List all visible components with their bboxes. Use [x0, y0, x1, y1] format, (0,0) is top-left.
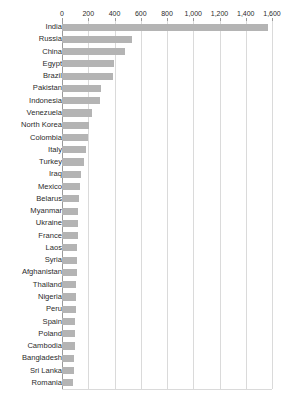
bar	[62, 183, 80, 190]
bar-row: Venezuela	[0, 107, 288, 119]
category-label: North Korea	[21, 121, 62, 129]
bar	[62, 109, 92, 116]
bar-row: Indonesia	[0, 95, 288, 107]
category-label: Syria	[45, 256, 62, 264]
bar	[62, 73, 113, 80]
category-label: Belarus	[36, 195, 62, 203]
bar	[62, 342, 75, 349]
bar	[62, 97, 100, 104]
bar-row: Laos	[0, 242, 288, 254]
axis-baseline	[62, 389, 272, 390]
category-label: Egypt	[43, 60, 62, 68]
bar-row: Romania	[0, 377, 288, 389]
category-label: Poland	[38, 330, 62, 338]
bar-rows: IndiaRussiaChinaEgyptBrazilPakistanIndon…	[0, 21, 288, 389]
bar-row: Egypt	[0, 58, 288, 70]
category-label: Colombia	[30, 134, 62, 142]
bar	[62, 306, 76, 313]
category-label: Pakistan	[33, 84, 62, 92]
bar	[62, 195, 79, 202]
bar-row: Poland	[0, 328, 288, 340]
category-label: India	[46, 23, 62, 31]
bar-row: Belarus	[0, 193, 288, 205]
bar-row: Russia	[0, 33, 288, 45]
category-label: Nigeria	[38, 293, 62, 301]
category-label: Romania	[32, 379, 62, 387]
category-label: Sri Lanka	[30, 367, 62, 375]
bar	[62, 36, 132, 43]
bar	[62, 232, 78, 239]
bar-row: Ukraine	[0, 217, 288, 229]
bar-chart: 02004006008001,0001,2001,4001,600 IndiaR…	[0, 0, 288, 393]
bar-row: Peru	[0, 303, 288, 315]
bar	[62, 85, 101, 92]
category-label: Spain	[43, 318, 62, 326]
category-label: Brazil	[43, 72, 62, 80]
bar-row: Iraq	[0, 168, 288, 180]
bar-row: France	[0, 230, 288, 242]
category-label: Myanmar	[30, 207, 62, 215]
category-label: Italy	[48, 146, 62, 154]
category-label: Bangladesh	[22, 354, 62, 362]
category-label: Indonesia	[29, 97, 62, 105]
category-label: Laos	[46, 244, 62, 252]
category-label: Venezuela	[27, 109, 62, 117]
bar-row: Sri Lanka	[0, 364, 288, 376]
bar-row: Mexico	[0, 180, 288, 192]
bar	[62, 281, 76, 288]
category-label: Cambodia	[27, 342, 62, 350]
bar-row: Nigeria	[0, 291, 288, 303]
bar	[62, 171, 81, 178]
bar	[62, 134, 88, 141]
category-label: Russia	[39, 35, 62, 43]
category-label: Thailand	[33, 281, 62, 289]
bar	[62, 146, 86, 153]
bar-row: Cambodia	[0, 340, 288, 352]
category-label: China	[42, 48, 62, 56]
bar-row: India	[0, 21, 288, 33]
bar-row: Colombia	[0, 131, 288, 143]
bar	[62, 208, 78, 215]
bar	[62, 24, 268, 31]
category-label: France	[38, 232, 62, 240]
bar-row: Pakistan	[0, 82, 288, 94]
clipped-header-strip	[0, 0, 288, 7]
bar	[62, 122, 89, 129]
category-label: Turkey	[39, 158, 62, 166]
bar	[62, 355, 74, 362]
bar	[62, 269, 77, 276]
bar-row: Brazil	[0, 70, 288, 82]
bar-row: Afghanistan	[0, 266, 288, 278]
bar-row: Thailand	[0, 279, 288, 291]
bar-row: Syria	[0, 254, 288, 266]
bar-row: Italy	[0, 144, 288, 156]
bar-row: Spain	[0, 315, 288, 327]
bar	[62, 244, 77, 251]
bar	[62, 60, 114, 67]
bar-row: North Korea	[0, 119, 288, 131]
bar	[62, 379, 73, 386]
category-label: Ukraine	[36, 219, 62, 227]
bar	[62, 220, 78, 227]
bar	[62, 330, 75, 337]
bar-row: China	[0, 46, 288, 58]
bar	[62, 48, 125, 55]
category-label: Mexico	[38, 183, 62, 191]
bar-row: Bangladesh	[0, 352, 288, 364]
bar-row: Myanmar	[0, 205, 288, 217]
bar	[62, 293, 76, 300]
bar	[62, 257, 77, 264]
category-label: Iraq	[49, 170, 62, 178]
category-label: Afghanistan	[22, 268, 62, 276]
bar	[62, 367, 74, 374]
bar	[62, 158, 84, 165]
category-label: Peru	[46, 305, 62, 313]
bar	[62, 318, 75, 325]
bar-row: Turkey	[0, 156, 288, 168]
